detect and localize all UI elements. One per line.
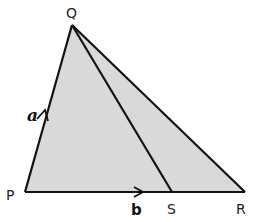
- label-p: P: [6, 187, 14, 203]
- label-r: R: [236, 201, 246, 217]
- label-s: S: [167, 201, 176, 217]
- label-q: Q: [66, 5, 77, 21]
- triangle-diagram: Q P S R a b: [0, 0, 266, 222]
- vector-a-label: a: [27, 105, 38, 125]
- vector-b-label: b: [131, 201, 142, 219]
- triangle-pqr-fill: [25, 25, 245, 192]
